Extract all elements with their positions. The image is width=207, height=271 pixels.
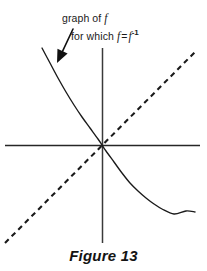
figure-container: graph of f for which f=f-1 Figure 13: [0, 0, 207, 271]
figure-plot-area: [0, 0, 207, 271]
figure-caption: Figure 13: [0, 247, 207, 264]
function-curve-f: [42, 48, 195, 214]
identity-line-dashed: [5, 50, 197, 243]
pointer-arrow-shaft: [62, 29, 73, 53]
